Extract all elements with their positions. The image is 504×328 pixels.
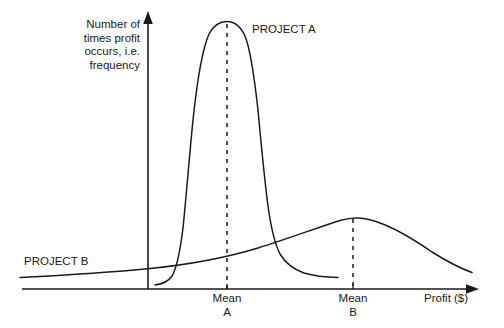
x-tick-label-mean-b: Mean B — [322, 292, 384, 319]
y-axis-arrowhead — [143, 11, 153, 24]
y-axis — [143, 11, 153, 289]
series-label-project-b: PROJECT B — [24, 255, 88, 269]
curve-project-b — [20, 218, 472, 278]
x-tick-label-mean-a: Mean A — [196, 292, 258, 319]
x-axis-label: Profit ($) — [424, 292, 468, 306]
curve-project-a — [155, 22, 338, 286]
y-axis-label: Number of times profit occurs, i.e. freq… — [28, 18, 140, 72]
chart-figure: Number of times profit occurs, i.e. freq… — [0, 0, 504, 328]
series-label-project-a: PROJECT A — [252, 23, 316, 37]
